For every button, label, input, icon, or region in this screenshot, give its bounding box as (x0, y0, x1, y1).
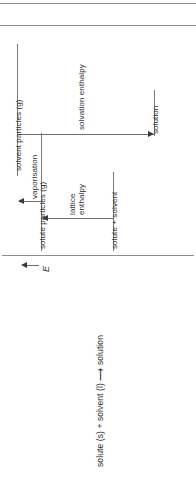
label-solution: solution (151, 106, 160, 134)
energy-axis-line (2, 255, 194, 256)
solvation-enthalpy-arrow-shaft (19, 134, 154, 135)
lattice-enthalpy-arrow-shaft (43, 218, 113, 219)
label-lattice-enthalpy-line2: enthalpy (77, 184, 86, 215)
label-lattice-enthalpy-line1: lattice (68, 193, 77, 215)
label-solute-plus-solvent: solute + solvent (110, 192, 119, 249)
label-energy-axis: E (42, 266, 51, 272)
energy-level-diagram: solvent particles (g) solute particles (… (0, 0, 196, 478)
energy-axis-arrow-head (21, 262, 27, 268)
caption-overall-equation: solute (s) + solvent (l) ⟶ solution (96, 335, 105, 467)
label-solute-particles: solute particles (g) (38, 182, 47, 249)
label-solvation-enthalpy: solvation enthalpy (77, 64, 86, 130)
vaporisation-arrow-head (18, 198, 24, 204)
label-vaporisation: vaporisation (30, 155, 39, 199)
label-solvent-particles: solvent particles (g) (14, 100, 23, 171)
